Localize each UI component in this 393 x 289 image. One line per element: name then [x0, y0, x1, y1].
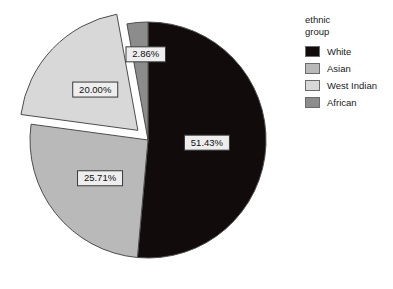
legend-swatch-icon	[305, 46, 320, 57]
pie-chart-figure: 51.43%25.71%20.00%2.86% ethnic group Whi…	[0, 0, 393, 289]
pie-slice[interactable]	[21, 14, 138, 130]
legend-item[interactable]: African	[305, 96, 391, 108]
legend-item-label: White	[327, 46, 351, 57]
legend-item-list: WhiteAsianWest IndianAfrican	[305, 45, 391, 108]
legend-swatch-icon	[305, 97, 320, 108]
pie-slice[interactable]	[30, 124, 148, 257]
legend-item[interactable]: West Indian	[305, 79, 391, 91]
data-label-text: 25.71%	[84, 172, 117, 183]
legend-swatch-icon	[305, 80, 320, 91]
data-label-text: 20.00%	[79, 84, 112, 95]
legend-item-label: West Indian	[327, 80, 377, 91]
legend-item[interactable]: Asian	[305, 62, 391, 74]
legend-item-label: Asian	[327, 63, 351, 74]
data-label-text: 2.86%	[132, 48, 159, 59]
data-label-text: 51.43%	[191, 137, 224, 148]
legend: ethnic group WhiteAsianWest IndianAfrica…	[305, 14, 391, 108]
legend-swatch-icon	[305, 63, 320, 74]
legend-item[interactable]: White	[305, 45, 391, 57]
legend-title: ethnic group	[305, 14, 391, 38]
legend-item-label: African	[327, 97, 357, 108]
